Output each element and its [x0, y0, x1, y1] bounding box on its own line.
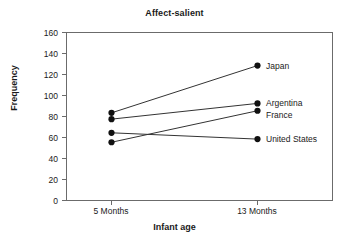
plot-frame	[67, 33, 333, 201]
marker-japan-5m	[108, 110, 114, 116]
series-line-france	[112, 133, 258, 139]
series-lines	[112, 66, 258, 143]
y-axis-ticks	[62, 33, 67, 201]
chart-plot-area	[0, 0, 349, 241]
marker-argentina-5m	[108, 116, 114, 122]
marker-france-13m	[254, 136, 260, 142]
marker-united-states-5m	[108, 139, 114, 145]
series-line-united-states	[112, 111, 258, 143]
chart-figure: Affect-salient Frequency Infant age 160 …	[0, 0, 349, 241]
marker-france-5m	[108, 130, 114, 136]
marker-japan-13m	[254, 63, 260, 69]
marker-united-states-13m	[254, 108, 260, 114]
x-axis-ticks	[112, 201, 258, 206]
marker-argentina-13m	[254, 100, 260, 106]
series-markers	[108, 63, 260, 146]
